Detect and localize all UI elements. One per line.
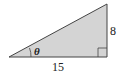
- angle-label: θ: [34, 45, 40, 57]
- triangle: [9, 4, 107, 57]
- base-label: 15: [52, 61, 64, 73]
- height-label: 8: [110, 25, 116, 37]
